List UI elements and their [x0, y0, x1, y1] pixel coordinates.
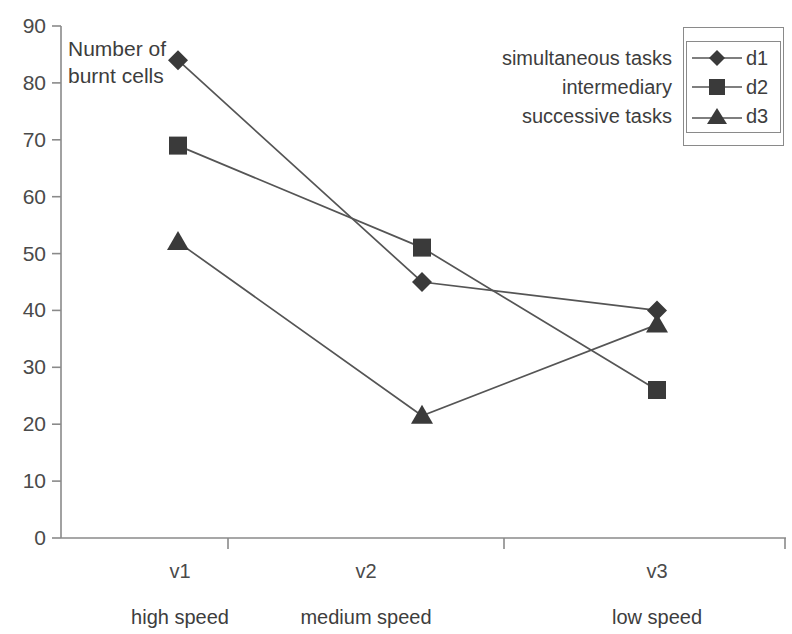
legend-label-d1: d1 [746, 48, 768, 68]
legend-description-d2: intermediary [430, 73, 680, 101]
legend-item-d1[interactable]: d1 [687, 44, 780, 72]
legend-marker-triangle-icon [690, 105, 744, 127]
x-category-v2: v2 medium speed [266, 561, 466, 627]
x-category-description: high speed [80, 607, 280, 627]
y-tick-label: 70 [0, 129, 46, 150]
x-tick-marks [228, 538, 785, 549]
legend-description-d1: simultaneous tasks [430, 44, 680, 72]
line-chart: 90 80 70 60 50 40 30 20 10 0 Number of b… [0, 0, 792, 634]
legend-descriptions: simultaneous tasks intermediary successi… [430, 41, 680, 133]
x-category-code: v3 [557, 561, 757, 581]
series-d2 [169, 137, 666, 399]
marker-square [169, 137, 187, 155]
y-tick-label: 90 [0, 15, 46, 36]
x-category-description: low speed [557, 607, 757, 627]
x-category-v3: v3 low speed [557, 561, 757, 627]
series-d3 [167, 231, 668, 424]
y-tick-label: 50 [0, 243, 46, 264]
legend-description-d3: successive tasks [430, 102, 680, 130]
marker-square [648, 381, 666, 399]
marker-triangle [646, 314, 668, 333]
marker-triangle [167, 231, 189, 250]
y-tick-label: 80 [0, 72, 46, 93]
y-tick-label: 20 [0, 413, 46, 434]
marker-square [413, 239, 431, 257]
legend-marker-diamond-icon [690, 47, 744, 69]
y-tick-label: 30 [0, 356, 46, 377]
legend-label-d3: d3 [746, 106, 768, 126]
legend-label-d2: d2 [746, 77, 768, 97]
y-axis-note: Number of burnt cells [68, 36, 166, 90]
x-category-description: medium speed [266, 607, 466, 627]
x-category-v1: v1 high speed [80, 561, 280, 627]
y-tick-label: 40 [0, 299, 46, 320]
y-tick-marks [52, 26, 61, 538]
y-tick-label: 60 [0, 186, 46, 207]
y-tick-label: 10 [0, 470, 46, 491]
legend-item-d3[interactable]: d3 [687, 102, 780, 130]
y-tick-label: 0 [0, 527, 46, 548]
marker-triangle [411, 405, 433, 424]
legend-box: d1 d2 d3 [686, 41, 781, 133]
legend-item-d2[interactable]: d2 [687, 73, 780, 101]
x-category-code: v1 [80, 561, 280, 581]
x-category-code: v2 [266, 561, 466, 581]
legend-marker-square-icon [690, 76, 744, 98]
